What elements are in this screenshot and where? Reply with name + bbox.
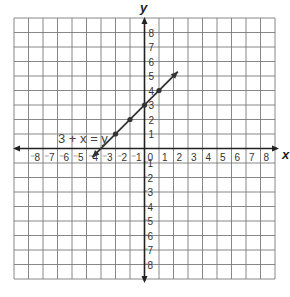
coordinate-plane: ⁻8⁻7⁻6⁻5⁻4⁻3⁻2⁻101234567887654321⁻1⁻2⁻3⁻… [0, 0, 290, 297]
svg-text:⁻7: ⁻7 [44, 152, 55, 163]
svg-text:⁻3: ⁻3 [143, 187, 154, 198]
svg-text:2: 2 [177, 152, 183, 163]
svg-text:⁻7: ⁻7 [143, 245, 154, 256]
svg-text:1: 1 [149, 129, 155, 140]
x-axis-label: x [281, 147, 290, 162]
svg-text:1: 1 [162, 152, 168, 163]
svg-text:7: 7 [149, 42, 155, 53]
svg-text:⁻1: ⁻1 [131, 152, 142, 163]
svg-text:⁻4: ⁻4 [143, 202, 154, 213]
svg-text:⁻3: ⁻3 [102, 152, 113, 163]
svg-text:⁻6: ⁻6 [143, 231, 154, 242]
svg-text:2: 2 [149, 115, 155, 126]
svg-text:7: 7 [249, 152, 255, 163]
svg-text:⁻1: ⁻1 [143, 158, 154, 169]
equation-label: 3 + x = y [58, 131, 108, 146]
svg-text:3: 3 [149, 100, 155, 111]
axes [13, 17, 279, 283]
svg-text:8: 8 [149, 28, 155, 39]
svg-text:⁻2: ⁻2 [117, 152, 128, 163]
y-axis-label: y [139, 0, 148, 15]
svg-text:⁻5: ⁻5 [73, 152, 84, 163]
svg-text:4: 4 [206, 152, 212, 163]
svg-text:⁻2: ⁻2 [143, 173, 154, 184]
svg-text:3: 3 [191, 152, 197, 163]
svg-text:5: 5 [149, 71, 155, 82]
svg-text:⁻5: ⁻5 [143, 216, 154, 227]
svg-text:8: 8 [264, 152, 270, 163]
svg-text:⁻8: ⁻8 [30, 152, 41, 163]
svg-text:5: 5 [220, 152, 226, 163]
svg-text:6: 6 [235, 152, 241, 163]
svg-text:⁻8: ⁻8 [143, 260, 154, 271]
svg-text:⁻6: ⁻6 [59, 152, 70, 163]
svg-text:6: 6 [149, 57, 155, 68]
